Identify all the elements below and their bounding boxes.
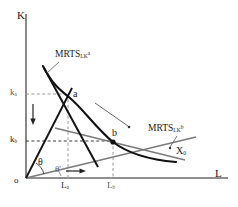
mrts-a-base: MRTS — [55, 49, 80, 59]
x-tick-lb: Lb — [107, 181, 115, 191]
y-tick-ka: ka — [10, 88, 17, 98]
point-label-a: a — [73, 89, 77, 99]
mrts-a-label: MRTSLKa — [55, 50, 90, 60]
x-tick-la: La — [61, 181, 69, 191]
x-tick-lb-sub: b — [113, 184, 116, 190]
x-axis-label: L — [215, 168, 222, 179]
isoquant-label: X0 — [176, 146, 186, 157]
leader-dot-mrts-b — [169, 147, 171, 149]
leader-dot-point-a — [128, 126, 131, 129]
mrts-b-base: MRTS — [148, 123, 173, 133]
origin-label: o — [14, 176, 19, 185]
figure-canvas — [0, 0, 238, 207]
y-tick-kb: kb — [10, 135, 17, 145]
angle-label-theta-prime: θ' — [55, 165, 61, 174]
mrts-b-sub: LK — [173, 127, 180, 133]
isoquant-sub: 0 — [183, 150, 186, 156]
point-marker-b — [110, 139, 115, 144]
isoquant-curve — [43, 66, 176, 162]
leader-line-point-a — [95, 103, 128, 126]
y-axis-label: K — [17, 10, 25, 21]
y-tick-ka-sub: a — [15, 91, 17, 97]
labor-increase-arrow-head — [80, 168, 87, 173]
isoquant-figure: K L o ka kb La Lb a b MRTSLKa MRTSLKb X0… — [0, 0, 238, 207]
x-tick-la-sub: a — [67, 184, 69, 190]
mrts-b-label: MRTSLKb — [148, 124, 183, 134]
y-tick-kb-sub: b — [15, 138, 18, 144]
capital-decrease-arrow-head — [30, 119, 35, 126]
ray-to-a — [26, 88, 72, 178]
point-label-b: b — [112, 128, 117, 138]
mrts-a-sup: a — [88, 50, 90, 56]
angle-label-theta: θ — [38, 157, 43, 167]
leader-line-mrts-a — [47, 62, 59, 73]
mrts-a-sub: LK — [80, 53, 87, 59]
mrts-b-sup: b — [181, 124, 184, 130]
